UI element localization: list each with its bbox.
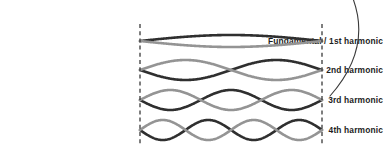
- harmonic-wave-1: [140, 35, 322, 47]
- standing-waves-group: [140, 35, 322, 140]
- harmonic-3-light-phase: [140, 90, 322, 110]
- harmonic-4-light-phase: [140, 120, 322, 140]
- harmonic-wave-2: [140, 60, 322, 80]
- side-arc-decoration: [330, 0, 359, 96]
- harmonics-diagram: [0, 0, 383, 150]
- harmonics-figure: Fundamental / 1st harmonic 2nd harmonic …: [0, 0, 383, 150]
- harmonic-wave-3: [140, 90, 322, 110]
- harmonic-1-dark-phase: [140, 35, 322, 41]
- fixed-end-boundaries: [140, 24, 322, 146]
- harmonic-wave-4: [140, 120, 322, 140]
- harmonic-1-light-phase: [140, 41, 322, 47]
- harmonic-3-dark-phase: [140, 90, 322, 110]
